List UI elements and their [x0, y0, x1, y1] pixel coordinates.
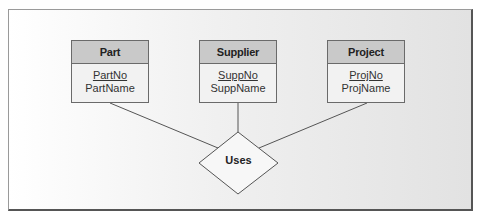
entity-project-primary-key: ProjNo: [328, 69, 404, 82]
entity-project-attribute: ProjName: [328, 82, 404, 95]
entity-supplier-attribute: SuppName: [200, 82, 276, 95]
part-uses-line: [110, 103, 218, 148]
entity-supplier-primary-key: SuppNo: [200, 69, 276, 82]
entity-project: Project ProjNo ProjName: [327, 40, 405, 103]
project-uses-line: [259, 103, 367, 148]
entity-supplier-title: Supplier: [200, 41, 276, 64]
relationship-label: Uses: [199, 154, 278, 166]
entity-part: Part PartNo PartName: [71, 40, 149, 103]
entity-part-title: Part: [72, 41, 148, 64]
entity-supplier: Supplier SuppNo SuppName: [199, 40, 277, 103]
entity-part-primary-key: PartNo: [72, 69, 148, 82]
entity-part-attribute: PartName: [72, 82, 148, 95]
entity-project-title: Project: [328, 41, 404, 64]
relationship-lines: [0, 0, 481, 219]
